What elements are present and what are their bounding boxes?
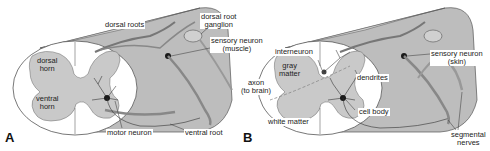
label-white-matter: white matter: [267, 118, 310, 126]
label-ventral-root: ventral root: [184, 129, 224, 137]
label-dorsal-root-ganglion-line2: ganglion: [201, 21, 236, 29]
label-interneuron: interneuron: [274, 48, 314, 56]
label-dorsal-horn-line2: horn: [37, 65, 57, 73]
label-ventral-horn: ventral horn: [35, 95, 60, 111]
label-dendrites: dendrites: [356, 74, 389, 82]
label-dorsal-root-ganglion: dorsal root ganglion: [200, 13, 237, 29]
label-dorsal-horn: dorsal horn: [36, 57, 58, 73]
label-motor-neuron: motor neuron: [106, 129, 153, 137]
label-segmental-nerves: segmental nerves: [450, 131, 487, 147]
panel-letter-a: A: [5, 130, 14, 145]
label-gray-matter: gray matter: [278, 62, 301, 78]
label-ventral-horn-line2: horn: [36, 103, 59, 111]
spinal-cord-diagram: [0, 0, 490, 151]
panel-letter-b: B: [243, 130, 252, 145]
label-sensory-neuron-skin-line2: (skin): [431, 58, 483, 66]
label-gray-matter-line2: matter: [279, 70, 300, 78]
label-sensory-neuron-muscle: sensory neuron (muscle): [210, 37, 264, 53]
label-sensory-neuron-muscle-line2: (muscle): [211, 45, 263, 53]
label-axon-to-brain: axon (to brain): [240, 79, 272, 95]
label-cell-body: cell body: [358, 108, 390, 116]
label-dorsal-roots: dorsal roots: [104, 21, 145, 29]
label-segmental-nerves-line2: nerves: [451, 139, 486, 147]
label-axon-line2: (to brain): [241, 87, 271, 95]
label-sensory-neuron-skin: sensory neuron (skin): [430, 50, 484, 66]
